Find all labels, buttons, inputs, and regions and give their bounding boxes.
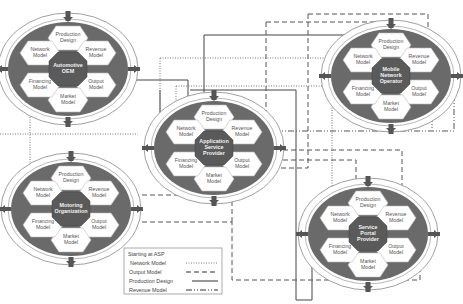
svg-text:MarketModel: MarketModel: [383, 100, 399, 112]
legend: Starting at ASP Network Model Output Mod…: [124, 248, 222, 294]
svg-text:OutputModel: OutputModel: [411, 85, 427, 97]
legend-title: Starting at ASP: [128, 251, 165, 257]
business-model-diagram: ProductionDesign RevenueModel OutputMode…: [0, 0, 463, 304]
svg-text:OutputModel: OutputModel: [388, 243, 404, 255]
svg-text:MarketModel: MarketModel: [360, 258, 376, 270]
legend-output-label: Output Model: [129, 269, 161, 275]
svg-text:MarketModel: MarketModel: [63, 233, 79, 245]
svg-text:NetworkModel: NetworkModel: [30, 46, 49, 58]
svg-text:NetworkModel: NetworkModel: [176, 125, 195, 137]
legend-network-label: Network Model: [130, 260, 166, 266]
legend-production-label: Production Design: [129, 278, 173, 284]
svg-text:NetworkModel: NetworkModel: [330, 211, 349, 223]
svg-text:MarketModel: MarketModel: [60, 93, 76, 105]
svg-text:OutputModel: OutputModel: [88, 78, 104, 90]
legend-revenue-label: Revenue Model: [129, 287, 167, 293]
svg-text:MarketModel: MarketModel: [206, 172, 222, 184]
svg-text:NetworkModel: NetworkModel: [353, 53, 372, 65]
svg-text:NetworkModel: NetworkModel: [33, 186, 52, 198]
svg-text:OutputModel: OutputModel: [234, 157, 250, 169]
svg-text:OutputModel: OutputModel: [91, 218, 107, 230]
